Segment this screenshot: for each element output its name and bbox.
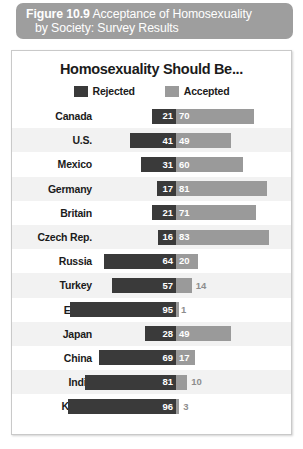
chart-row: India8110 (12, 370, 291, 394)
figure-number: Figure 10.9 (26, 7, 90, 21)
bar-value-accepted: 3 (183, 399, 188, 414)
chart-row: Canada2170 (12, 104, 291, 128)
legend-item-rejected: Rejected (74, 85, 135, 97)
bar-segment-rejected: 96 (68, 399, 176, 414)
bar-segment-accepted: 60 (176, 157, 243, 172)
bar-segment-rejected: 64 (104, 254, 176, 269)
bar-value-rejected: 69 (162, 353, 173, 363)
bar-segment-accepted: 20 (176, 254, 198, 269)
bar-area: 2849 (100, 326, 291, 341)
bar-segment-rejected: 95 (70, 302, 176, 317)
country-label: Japan (12, 328, 100, 340)
bar-area: 6420 (100, 254, 291, 269)
chart-legend: Rejected Accepted (12, 85, 291, 97)
bar-segment-rejected: 31 (141, 157, 176, 172)
bar-value-accepted: 60 (179, 160, 190, 170)
chart-rows: Canada2170U.S.4149Mexico3160Germany1781B… (12, 104, 291, 418)
bar-value-accepted: 49 (179, 136, 190, 146)
bar-value-rejected: 96 (162, 402, 173, 412)
bar-value-rejected: 16 (162, 232, 173, 242)
legend-item-accepted: Accepted (165, 85, 230, 97)
bar-segment-rejected: 69 (99, 350, 176, 365)
chart-row: Germany1781 (12, 177, 291, 201)
bar-value-rejected: 81 (162, 377, 173, 387)
bar-segment-rejected: 81 (85, 375, 176, 390)
country-label: Canada (12, 110, 100, 122)
bar-value-accepted: 71 (179, 208, 190, 218)
bar-segment-accepted: 49 (176, 133, 231, 148)
bar-area: 6917 (100, 350, 291, 365)
bar-area: 963 (100, 399, 291, 414)
bar-value-rejected: 57 (162, 281, 173, 291)
bar-segment-accepted: 70 (176, 109, 254, 124)
bar-segment-rejected: 28 (145, 326, 176, 341)
country-label: Turkey (12, 279, 100, 291)
chart-row: China6917 (12, 346, 291, 370)
bar-value-rejected: 95 (162, 305, 173, 315)
bar-value-rejected: 64 (162, 256, 173, 266)
bar-area: 2170 (100, 109, 291, 124)
bar-value-rejected: 21 (162, 111, 173, 121)
bar-area: 3160 (100, 157, 291, 172)
bar-segment-rejected: 21 (152, 109, 176, 124)
figure-caption-line-2: by Society: Survey Results (26, 21, 285, 35)
bar-value-rejected: 21 (162, 208, 173, 218)
bar-segment-accepted (176, 375, 187, 390)
bar-segment-accepted (176, 302, 179, 317)
chart-row: Mexico3160 (12, 152, 291, 176)
bar-segment-accepted: 83 (176, 230, 269, 245)
bar-value-accepted: 10 (191, 375, 202, 390)
bar-segment-rejected: 17 (157, 181, 176, 196)
bar-area: 2171 (100, 205, 291, 220)
bar-value-accepted: 81 (179, 184, 190, 194)
bar-value-rejected: 28 (162, 329, 173, 339)
chart-row: Egypt951 (12, 298, 291, 322)
bar-segment-accepted (176, 278, 192, 293)
chart-title: Homosexuality Should Be... (12, 61, 291, 77)
figure-banner: Figure 10.9 Acceptance of Homosexuality … (16, 3, 293, 39)
bar-value-rejected: 31 (162, 160, 173, 170)
chart-row: Kenya963 (12, 394, 291, 418)
legend-swatch-accepted-icon (165, 86, 179, 97)
bar-value-accepted: 83 (179, 232, 190, 242)
figure-banner-line-1: Figure 10.9 Acceptance of Homosexuality (26, 7, 285, 21)
bar-value-accepted: 1 (181, 302, 186, 317)
country-label: Mexico (12, 158, 100, 170)
chart-row: Turkey5714 (12, 273, 291, 297)
country-label: U.S. (12, 134, 100, 146)
bar-segment-rejected: 21 (152, 205, 176, 220)
country-label: China (12, 352, 100, 364)
bar-segment-accepted (176, 399, 179, 414)
chart-row: Britain2171 (12, 201, 291, 225)
bar-value-accepted: 14 (196, 278, 207, 293)
bar-segment-rejected: 16 (158, 230, 176, 245)
bar-segment-accepted: 17 (176, 350, 195, 365)
bar-area: 1781 (100, 181, 291, 196)
bar-segment-accepted: 71 (176, 205, 256, 220)
country-label: Britain (12, 207, 100, 219)
bar-area: 8110 (100, 375, 291, 390)
legend-label-rejected: Rejected (93, 85, 135, 97)
bar-value-accepted: 17 (179, 353, 190, 363)
bar-area: 5714 (100, 278, 291, 293)
bar-area: 951 (100, 302, 291, 317)
legend-label-accepted: Accepted (184, 85, 230, 97)
chart-row: U.S.4149 (12, 128, 291, 152)
country-label: Germany (12, 183, 100, 195)
source-line (16, 440, 291, 449)
country-label: Czech Rep. (12, 231, 100, 243)
figure-caption-line-1: Acceptance of Homosexuality (92, 7, 251, 21)
bar-value-accepted: 70 (179, 111, 190, 121)
chart-row: Japan2849 (12, 322, 291, 346)
bar-segment-accepted: 81 (176, 181, 267, 196)
bar-value-accepted: 49 (179, 329, 190, 339)
chart-panel: Homosexuality Should Be... Rejected Acce… (11, 50, 292, 435)
chart-row: Russia6420 (12, 249, 291, 273)
bar-value-rejected: 17 (162, 184, 173, 194)
bar-area: 4149 (100, 133, 291, 148)
bar-segment-rejected: 57 (112, 278, 176, 293)
country-label: Russia (12, 255, 100, 267)
bar-area: 1683 (100, 230, 291, 245)
bar-segment-accepted: 49 (176, 326, 231, 341)
bar-segment-rejected: 41 (130, 133, 176, 148)
